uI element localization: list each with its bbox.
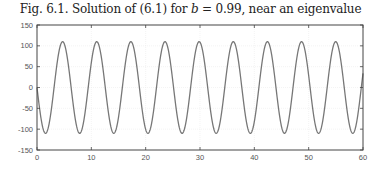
- x-tick-label: 40: [250, 153, 258, 162]
- y-tick-label: -100: [18, 125, 33, 134]
- y-tick-label: -150: [18, 146, 33, 155]
- line-chart: 0102030405060150100500-50-100-150: [0, 0, 381, 175]
- x-tick-label: 30: [196, 153, 204, 162]
- x-tick-label: 50: [304, 153, 312, 162]
- x-tick-label: 20: [141, 153, 149, 162]
- y-tick-label: 150: [20, 21, 33, 30]
- x-tick-label: 10: [87, 153, 95, 162]
- y-tick-label: -50: [22, 104, 33, 113]
- y-tick-label: 50: [25, 62, 33, 71]
- x-tick-label: 60: [359, 153, 367, 162]
- y-tick-label: 0: [29, 83, 33, 92]
- y-tick-label: 100: [20, 41, 33, 50]
- x-tick-label: 0: [35, 153, 39, 162]
